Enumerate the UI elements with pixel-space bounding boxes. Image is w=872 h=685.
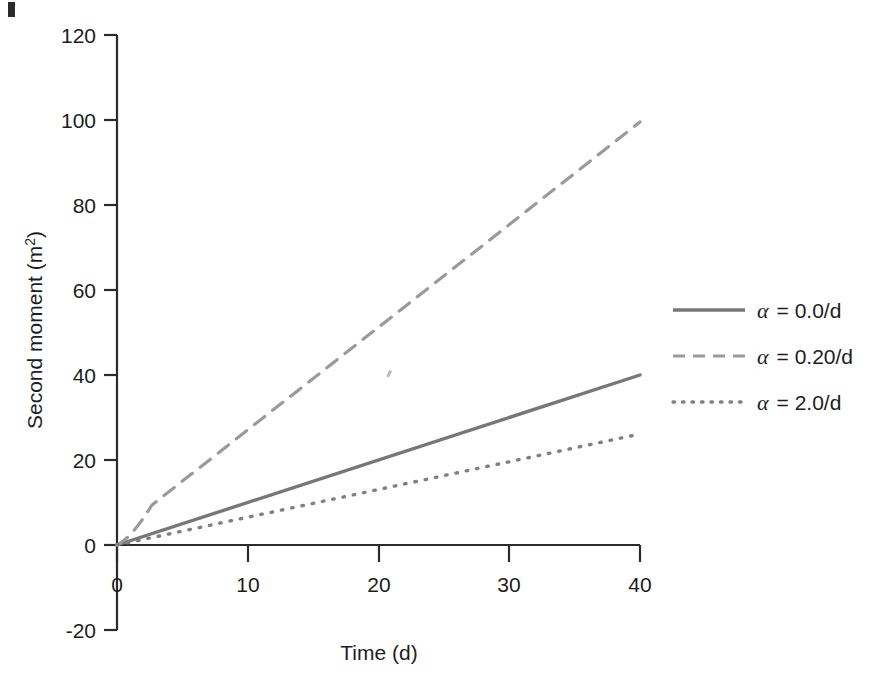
figure-panel: 120 100 80 60 40 20 0 -20 0 10 20 30 40 … [0, 0, 872, 685]
x-tick-label-0: 0 [111, 573, 123, 596]
x-tick-label-20: 20 [367, 573, 390, 596]
y-tick-label-40: 40 [73, 364, 96, 387]
legend-alpha-symbol-1: α [757, 298, 769, 323]
y-axis-title-main: Second moment (m [23, 246, 46, 429]
svg-text:α= 0.20/d: α= 0.20/d [757, 344, 853, 369]
y-tick-labels: 120 100 80 60 40 20 0 -20 [61, 24, 96, 642]
legend-label-3: = 2.0/d [777, 391, 842, 414]
scan-artifact-mark [8, 2, 15, 17]
legend-label-2: = 0.20/d [777, 345, 853, 368]
legend-label-1: = 0.0/d [777, 299, 842, 322]
y-tick-label-60: 60 [73, 279, 96, 302]
y-axis-title-group: Second moment (m2) [22, 231, 46, 429]
x-tick-label-30: 30 [497, 573, 520, 596]
y-tick-label-100: 100 [61, 109, 96, 132]
series-plot-area [117, 122, 640, 545]
y-tick-label-0: 0 [84, 534, 96, 557]
series-line-alpha-0-20 [117, 122, 640, 545]
y-axis-title-superscript: 2 [22, 238, 38, 246]
y-axis-title-close: ) [23, 231, 46, 238]
series-line-alpha-2-0 [117, 434, 640, 545]
svg-text:α= 2.0/d: α= 2.0/d [757, 390, 841, 415]
y-tick-label-80: 80 [73, 194, 96, 217]
legend-item-alpha-2-0[interactable]: α= 2.0/d [673, 390, 841, 415]
line-chart: 120 100 80 60 40 20 0 -20 0 10 20 30 40 … [0, 0, 872, 685]
legend-item-alpha-0-20[interactable]: α= 0.20/d [673, 344, 853, 369]
x-tick-labels: 0 10 20 30 40 [111, 573, 652, 596]
y-tick-label-neg20: -20 [66, 619, 96, 642]
x-tick-label-10: 10 [236, 573, 259, 596]
series-line-alpha-0-0 [117, 375, 640, 545]
legend: α= 0.0/d α= 0.20/d α= 2.0/d [673, 298, 853, 415]
scan-speck [386, 370, 392, 378]
x-tick-label-40: 40 [628, 573, 651, 596]
x-tick-marks [117, 545, 640, 562]
y-tick-label-120: 120 [61, 24, 96, 47]
y-tick-marks [104, 35, 117, 630]
x-axis-title: Time (d) [340, 641, 417, 664]
legend-alpha-symbol-2: α [757, 344, 769, 369]
legend-item-alpha-0-0[interactable]: α= 0.0/d [673, 298, 841, 323]
y-tick-label-20: 20 [73, 449, 96, 472]
svg-text:Second moment (m2): Second moment (m2) [22, 231, 46, 429]
legend-alpha-symbol-3: α [757, 390, 769, 415]
svg-text:α= 0.0/d: α= 0.0/d [757, 298, 841, 323]
